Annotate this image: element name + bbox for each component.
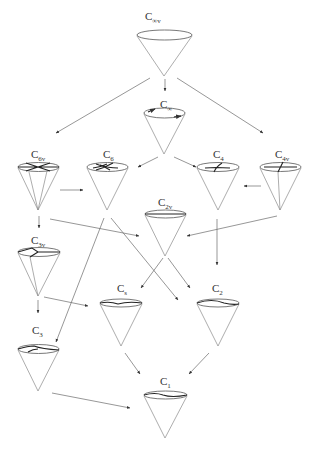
- node-label: Cs: [117, 282, 127, 297]
- edge-cs-c1: [125, 353, 140, 374]
- node-label: C3v: [31, 234, 46, 249]
- node-label: C4: [213, 148, 224, 163]
- edge-c2v-c2: [168, 258, 190, 288]
- edges: [38, 78, 277, 408]
- edge-c3v-cs: [44, 297, 88, 306]
- node-c4v: C4v: [260, 148, 301, 210]
- node-c2v: C2v: [145, 196, 186, 256]
- node-label: C6: [103, 148, 114, 163]
- edge-cinf-c6: [138, 157, 158, 167]
- node-label: C1: [160, 375, 171, 390]
- node-cs: Cs: [100, 282, 142, 346]
- node-cinfv: C∞v: [137, 10, 192, 76]
- node-label: C2v: [158, 196, 173, 211]
- edge-c6-c3: [56, 218, 104, 342]
- node-label: C∞v: [145, 10, 161, 25]
- node-c3: C3: [18, 324, 59, 391]
- symmetry-lattice-diagram: C∞v C∞ C6v C6 C4 C4v: [0, 0, 316, 454]
- node-label: C4v: [275, 148, 290, 163]
- edge-c6v-c2v: [50, 219, 139, 236]
- node-c4: C4: [197, 148, 239, 210]
- node-c2: C2: [197, 282, 239, 346]
- node-c1: C1: [144, 375, 187, 438]
- node-cinf: C∞: [144, 98, 185, 154]
- edge-cinfv-c6v: [56, 78, 150, 133]
- edge-c4v-c2v: [187, 216, 277, 236]
- edge-cinfv-c4v: [177, 78, 263, 133]
- node-c3v: C3v: [18, 234, 60, 296]
- node-label: C3: [32, 324, 43, 339]
- node-label: C6v: [31, 148, 46, 163]
- node-c6v: C6v: [18, 148, 59, 210]
- edge-cinf-c4: [174, 157, 196, 167]
- node-label: C2: [212, 282, 223, 297]
- node-c6: C6: [87, 148, 128, 210]
- edge-c2v-cs: [141, 258, 163, 288]
- node-label: C∞: [160, 98, 172, 113]
- edge-c3-c1: [52, 393, 130, 408]
- edge-c2-c1: [189, 353, 209, 374]
